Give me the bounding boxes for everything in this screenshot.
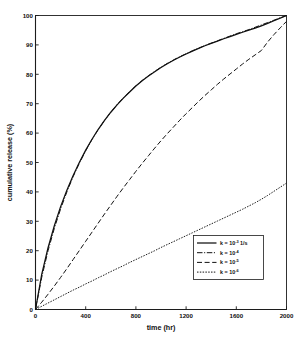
x-tick-label: 1200 — [179, 312, 193, 319]
x-axis-title: time (hr) — [147, 323, 176, 332]
y-tick-label: 20 — [26, 247, 33, 254]
y-axis-title: cumulative release (%) — [5, 123, 14, 201]
y-tick-label: 30 — [26, 218, 33, 225]
y-tick-label: 90 — [26, 41, 33, 48]
legend-entry-label: k = 10-3 1/s — [220, 239, 248, 246]
figure-container: 0102030405060708090100040080012001600200… — [0, 0, 300, 357]
x-tick-label: 400 — [81, 312, 92, 319]
y-tick-label: 70 — [26, 100, 33, 107]
y-tick-label: 100 — [23, 12, 34, 19]
chart-root: 0102030405060708090100040080012001600200… — [5, 12, 294, 332]
y-tick-label: 40 — [26, 188, 33, 195]
y-tick-label: 50 — [26, 159, 33, 166]
release-kinetics-chart: 0102030405060708090100040080012001600200… — [0, 0, 300, 357]
x-tick-label: 1600 — [230, 312, 244, 319]
y-tick-label: 80 — [26, 71, 33, 78]
x-tick-label: 800 — [131, 312, 142, 319]
x-tick-label: 0 — [34, 312, 38, 319]
y-tick-label: 60 — [26, 129, 33, 136]
x-tick-label: 2000 — [280, 312, 294, 319]
y-tick-label: 10 — [26, 276, 33, 283]
